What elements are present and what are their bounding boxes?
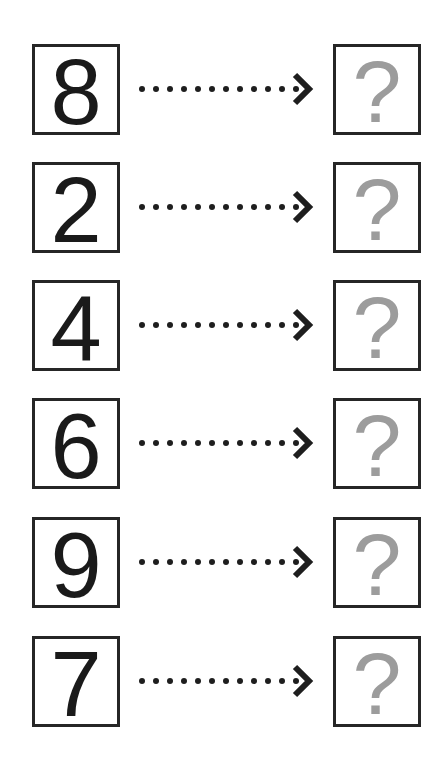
- arrow-dot: [237, 86, 243, 92]
- chevron-right-icon: [289, 545, 319, 579]
- answer-box: ?: [333, 44, 421, 135]
- chevron-right-icon: [289, 308, 319, 342]
- arrow-dot: [195, 322, 201, 328]
- input-number: 9: [50, 519, 101, 611]
- arrow-dot: [279, 559, 285, 565]
- dotted-arrow-icon: [139, 308, 319, 342]
- dotted-arrow-icon: [139, 426, 319, 460]
- arrow-dot: [237, 204, 243, 210]
- arrow-dot: [139, 322, 145, 328]
- arrow-dot: [209, 86, 215, 92]
- answer-box: ?: [333, 517, 421, 608]
- arrow-dot: [223, 559, 229, 565]
- arrow-dot: [279, 678, 285, 684]
- arrow-dot: [195, 440, 201, 446]
- arrow-dot: [139, 440, 145, 446]
- arrow-dot: [139, 678, 145, 684]
- mapping-row: 9?: [0, 517, 446, 608]
- input-number-box: 2: [32, 162, 120, 253]
- question-mark: ?: [353, 166, 402, 254]
- arrow-dot: [153, 86, 159, 92]
- question-mark: ?: [353, 284, 402, 372]
- arrow-dot: [195, 86, 201, 92]
- arrow-dot: [167, 678, 173, 684]
- chevron-right-icon: [289, 72, 319, 106]
- arrow-dot: [279, 204, 285, 210]
- dotted-arrow-icon: [139, 545, 319, 579]
- arrow-dot: [209, 678, 215, 684]
- chevron-right-icon: [289, 664, 319, 698]
- dotted-arrow-icon: [139, 72, 319, 106]
- arrow-dot: [223, 440, 229, 446]
- arrow-dot: [153, 322, 159, 328]
- arrow-dot: [181, 86, 187, 92]
- arrow-dot: [251, 322, 257, 328]
- arrow-dot: [139, 204, 145, 210]
- answer-box: ?: [333, 636, 421, 727]
- question-mark: ?: [353, 521, 402, 609]
- arrow-dot: [195, 678, 201, 684]
- arrow-dot: [237, 322, 243, 328]
- arrow-dot: [279, 322, 285, 328]
- mapping-row: 7?: [0, 636, 446, 727]
- arrow-dot: [223, 678, 229, 684]
- arrow-dot: [181, 322, 187, 328]
- arrow-dot: [167, 322, 173, 328]
- arrow-dot: [223, 86, 229, 92]
- answer-box: ?: [333, 398, 421, 489]
- chevron-right-icon: [289, 190, 319, 224]
- chevron-right-icon: [289, 426, 319, 460]
- mapping-row: 2?: [0, 162, 446, 253]
- arrow-dot: [167, 440, 173, 446]
- input-number: 6: [50, 400, 101, 492]
- arrow-dot: [265, 678, 271, 684]
- arrow-dot: [195, 559, 201, 565]
- arrow-dot: [237, 678, 243, 684]
- arrow-dot: [209, 322, 215, 328]
- question-mark: ?: [353, 48, 402, 136]
- arrow-dot: [139, 559, 145, 565]
- dotted-arrow-icon: [139, 190, 319, 224]
- input-number-box: 6: [32, 398, 120, 489]
- question-mark: ?: [353, 402, 402, 490]
- arrow-dot: [251, 559, 257, 565]
- arrow-dot: [237, 559, 243, 565]
- answer-box: ?: [333, 280, 421, 371]
- dotted-arrow-icon: [139, 664, 319, 698]
- arrow-dot: [195, 204, 201, 210]
- arrow-dot: [223, 322, 229, 328]
- arrow-dot: [209, 559, 215, 565]
- arrow-dot: [167, 204, 173, 210]
- arrow-dot: [251, 86, 257, 92]
- arrow-dot: [279, 440, 285, 446]
- arrow-dot: [265, 322, 271, 328]
- arrow-dot: [265, 86, 271, 92]
- input-number-box: 4: [32, 280, 120, 371]
- arrow-dot: [265, 559, 271, 565]
- arrow-dot: [209, 440, 215, 446]
- arrow-dot: [209, 204, 215, 210]
- arrow-dot: [279, 86, 285, 92]
- arrow-dot: [153, 678, 159, 684]
- input-number-box: 9: [32, 517, 120, 608]
- arrow-dot: [251, 678, 257, 684]
- arrow-dot: [265, 440, 271, 446]
- arrow-dot: [153, 204, 159, 210]
- answer-box: ?: [333, 162, 421, 253]
- input-number: 8: [50, 46, 101, 138]
- input-number-box: 7: [32, 636, 120, 727]
- arrow-dot: [181, 559, 187, 565]
- arrow-dot: [181, 440, 187, 446]
- arrow-dot: [139, 86, 145, 92]
- arrow-dot: [237, 440, 243, 446]
- arrow-dot: [223, 204, 229, 210]
- arrow-dot: [265, 204, 271, 210]
- mapping-row: 6?: [0, 398, 446, 489]
- question-mark: ?: [353, 640, 402, 728]
- arrow-dot: [181, 678, 187, 684]
- arrow-dot: [251, 204, 257, 210]
- input-number-box: 8: [32, 44, 120, 135]
- input-number: 2: [50, 164, 101, 256]
- arrow-dot: [181, 204, 187, 210]
- input-number: 4: [50, 282, 101, 374]
